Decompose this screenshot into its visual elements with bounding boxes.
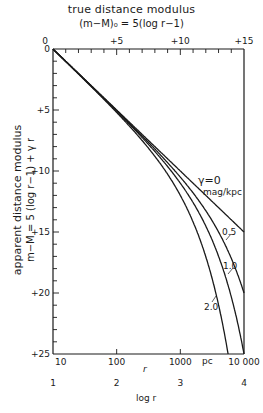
logr-tick-label: 4 <box>241 378 247 388</box>
curve-label-0-5: 0.5 <box>222 228 236 237</box>
top-tick-label: +15 <box>235 36 254 46</box>
y-tick-label: +25 <box>31 349 50 359</box>
x-axis-title: r <box>143 365 147 374</box>
logr-tick-label: 1 <box>50 378 56 388</box>
chart-plot: 0+5+10+15+20+250+5+10+1510100100010 0001… <box>0 0 263 413</box>
y-tick-label: +20 <box>31 288 50 298</box>
x-tick-label: 100 <box>108 357 125 367</box>
y-axis-title: apparent distance modulus <box>11 125 24 276</box>
logr-tick-label: 2 <box>114 378 120 388</box>
x-axis-unit: pc <box>202 357 213 366</box>
logr-tick-label: 3 <box>177 378 183 388</box>
tick-labels: 0+5+10+15+20+250+5+10+1510100100010 0001… <box>31 36 260 388</box>
top-axis-formula: (m−M)₀ = 5(log r−1) <box>0 19 263 29</box>
top-axis-title: true distance modulus <box>0 4 263 15</box>
gamma-zero-label: γ=0 <box>198 175 221 186</box>
curve-label-2-0: 2.0 <box>204 303 218 312</box>
y-tick-label: +5 <box>37 105 50 115</box>
x-tick-label: 10 000 <box>228 357 260 367</box>
curve-label-1-0: 1.0 <box>223 262 237 271</box>
x-tick-label: 10 <box>55 357 67 367</box>
gamma-unit-label: mag/kpc <box>203 188 242 197</box>
curve-gamma-0-5 <box>53 49 244 293</box>
top-tick-label: 0 <box>42 36 48 46</box>
x-tick-label: 1000 <box>169 357 192 367</box>
top-tick-label: +10 <box>171 36 190 46</box>
logr-axis-title: log r <box>136 394 156 403</box>
curve-gamma-2 <box>53 49 228 354</box>
top-tick-label: +5 <box>110 36 123 46</box>
y-axis-formula: m−M = 5 (log r−1) + γ r <box>25 138 36 262</box>
